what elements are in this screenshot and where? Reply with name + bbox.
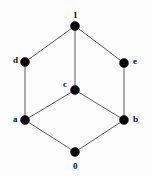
node-label-b: b: [133, 115, 138, 124]
node-label-e: e: [133, 57, 137, 66]
graph-edge-bottom-b: [75, 120, 124, 152]
node-label-a: a: [13, 115, 18, 124]
graph-edge-a-bottom: [25, 120, 75, 152]
graph-node-top[interactable]: [71, 22, 80, 31]
graph-edge-a-c: [25, 90, 75, 120]
graph-edge-top-d: [25, 26, 75, 62]
graph-edge-top-e: [75, 26, 124, 63]
graph-node-c[interactable]: [71, 86, 80, 95]
graph-edge-c-b: [75, 90, 124, 120]
graph-canvas: [0, 0, 152, 176]
node-label-c: c: [63, 80, 67, 89]
graph-node-d[interactable]: [21, 58, 30, 67]
graph-node-b[interactable]: [120, 116, 129, 125]
node-label-d: d: [13, 56, 18, 65]
graph-node-e[interactable]: [120, 59, 129, 68]
graph-node-a[interactable]: [21, 116, 30, 125]
graph-node-bottom[interactable]: [71, 148, 80, 157]
lattice-diagram-figure: 1decab0: [0, 0, 152, 176]
node-label-top: 1: [73, 11, 78, 20]
node-label-bottom: 0: [73, 162, 78, 171]
